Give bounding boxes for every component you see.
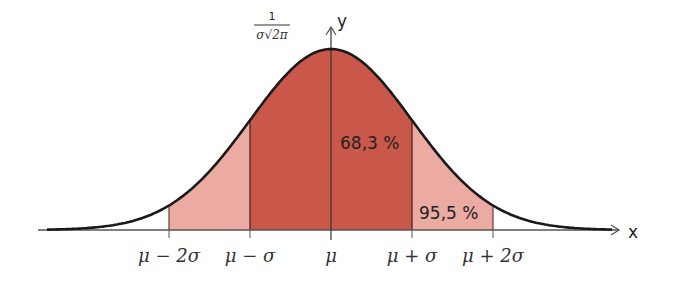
x-axis-label: x: [628, 222, 638, 242]
tick-label-p2s: μ + 2σ: [462, 245, 525, 266]
tick-label-m1s: μ − σ: [225, 245, 276, 266]
tick-label-p1s: μ + σ: [387, 245, 438, 266]
peak-label-numerator: 1: [269, 10, 276, 23]
peak-label-denominator: σ√2π: [256, 28, 288, 42]
tick-label-mu: μ: [325, 245, 337, 266]
normal-distribution-figure: x y 1 σ√2π 68,3 % 95,5 % μ − 2σ μ − σ μ …: [0, 0, 674, 283]
inner-percent-label: 68,3 %: [340, 133, 399, 153]
tick-label-m2s: μ − 2σ: [138, 245, 201, 266]
y-axis-label: y: [337, 11, 347, 31]
outer-percent-label: 95,5 %: [419, 203, 478, 223]
